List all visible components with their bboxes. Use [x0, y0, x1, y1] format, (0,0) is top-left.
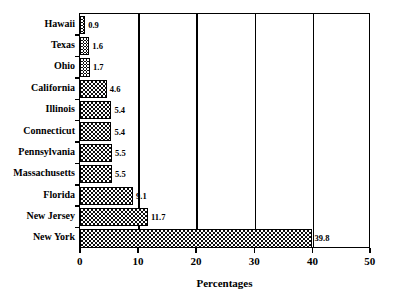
bar-value-label: 1.7: [93, 63, 104, 72]
x-axis-tick: [312, 248, 314, 253]
bar-massachusetts: [80, 165, 112, 183]
bar-ohio: [80, 58, 90, 76]
category-label: Ohio: [54, 61, 75, 71]
x-axis-tick-label: 0: [77, 256, 83, 267]
bar-hawaii: [80, 16, 85, 34]
bar-value-label: 1.6: [92, 42, 103, 51]
category-label: California: [31, 83, 75, 93]
bar-row: 5.4: [80, 101, 369, 119]
bar-value-label: 4.6: [110, 85, 121, 94]
x-axis-tick: [137, 248, 139, 253]
bar-california: [80, 80, 107, 98]
bar-row: 9.1: [80, 187, 369, 205]
bar-pennsylvania: [80, 144, 112, 162]
bar-row: 39.8: [80, 229, 369, 247]
x-axis-tick: [195, 248, 197, 253]
bar-value-label: 39.8: [315, 234, 330, 243]
bar-value-label: 5.5: [115, 149, 126, 158]
bar-texas: [80, 37, 89, 55]
x-axis-tick: [369, 248, 371, 253]
bar-row: 11.7: [80, 208, 369, 226]
x-axis-tick-label: 10: [132, 256, 143, 267]
bars-layer: 0.9 1.6 1.7 4.6 5.4 5.4: [80, 14, 369, 247]
bar-chart: Hawaii Texas Ohio California Illinois Co…: [0, 0, 394, 308]
bar-new-jersey: [80, 208, 148, 226]
bar-value-label: 11.7: [151, 213, 165, 222]
bar-row: 5.5: [80, 165, 369, 183]
bar-value-label: 5.4: [114, 106, 125, 115]
bar-row: 5.5: [80, 144, 369, 162]
category-axis-labels: Hawaii Texas Ohio California Illinois Co…: [0, 13, 75, 248]
x-axis-tick-label: 20: [191, 256, 202, 267]
category-label: New Jersey: [26, 211, 75, 221]
bar-value-label: 9.1: [136, 191, 147, 200]
bar-row: 1.7: [80, 58, 369, 76]
plot-area: 0.9 1.6 1.7 4.6 5.4 5.4: [79, 13, 370, 248]
x-axis-tick-label: 30: [249, 256, 260, 267]
x-axis-tick-label: 40: [307, 256, 318, 267]
category-label: Illinois: [46, 104, 75, 114]
bar-connecticut: [80, 122, 111, 140]
bar-value-label: 5.5: [115, 170, 126, 179]
category-label: Texas: [51, 40, 75, 50]
bar-value-label: 0.9: [88, 20, 99, 29]
bar-row: 1.6: [80, 37, 369, 55]
category-label: Pennsylvania: [18, 147, 75, 157]
x-axis-title: Percentages: [79, 278, 370, 289]
bar-value-label: 5.4: [114, 127, 125, 136]
bar-row: 4.6: [80, 80, 369, 98]
x-axis-tick: [79, 248, 81, 253]
x-axis-tick: [254, 248, 256, 253]
category-label: Florida: [43, 190, 75, 200]
bar-illinois: [80, 101, 111, 119]
x-axis-tick-label: 50: [364, 256, 375, 267]
bar-new-york: [80, 229, 312, 247]
category-label: Connecticut: [23, 126, 75, 136]
category-label: Hawaii: [44, 19, 75, 29]
bar-row: 0.9: [80, 16, 369, 34]
bar-row: 5.4: [80, 122, 369, 140]
category-label: New York: [33, 232, 75, 242]
category-label: Massachusetts: [13, 168, 75, 178]
bar-florida: [80, 187, 133, 205]
